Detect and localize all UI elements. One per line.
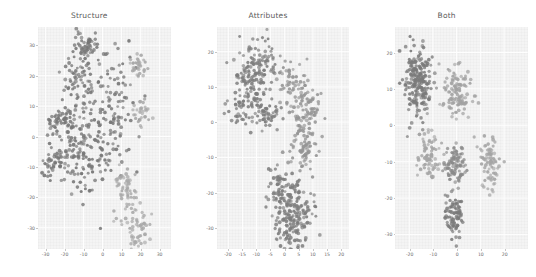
x-tick-label: 10 — [478, 252, 484, 257]
y-tick-mark — [215, 228, 217, 229]
y-tick-label: -20 — [201, 190, 214, 195]
y-tick-mark — [215, 52, 217, 53]
x-tick-label: -10 — [253, 252, 261, 257]
x-tick-label: -30 — [42, 252, 50, 257]
y-tick-label: 0 — [201, 120, 214, 125]
y-tick-label: 20 — [22, 73, 35, 78]
y-tick-label: 10 — [201, 84, 214, 89]
y-tick-mark — [36, 76, 38, 77]
x-tick-mark — [270, 249, 271, 251]
x-tick-mark — [433, 249, 434, 251]
y-tick-label: -10 — [201, 155, 214, 160]
x-tick-mark — [228, 249, 229, 251]
x-tick-label: -10 — [80, 252, 88, 257]
y-tick-mark — [394, 53, 396, 54]
x-tick-label: 0 — [101, 252, 104, 257]
x-tick-label: 30 — [157, 252, 163, 257]
x-tick-label: -15 — [238, 252, 246, 257]
x-tick-label: -20 — [224, 252, 232, 257]
x-tick-mark — [457, 249, 458, 251]
y-tick-mark — [394, 89, 396, 90]
y-tick-label: 10 — [22, 104, 35, 109]
plot-area — [217, 27, 350, 249]
y-tick-label: -10 — [379, 159, 392, 164]
y-tick-mark — [394, 198, 396, 199]
panel-title: Attributes — [179, 11, 358, 20]
y-tick-label: -30 — [201, 225, 214, 230]
x-tick-label: 15 — [324, 252, 330, 257]
x-tick-label: 10 — [310, 252, 316, 257]
x-tick-label: -20 — [406, 252, 414, 257]
y-tick-mark — [215, 157, 217, 158]
y-tick-label: 10 — [379, 86, 392, 91]
x-tick-label: -5 — [268, 252, 273, 257]
x-tick-mark — [46, 249, 47, 251]
y-tick-label: 30 — [22, 43, 35, 48]
x-tick-mark — [242, 249, 243, 251]
y-tick-label: 20 — [379, 50, 392, 55]
x-tick-mark — [160, 249, 161, 251]
x-tick-label: 5 — [297, 252, 300, 257]
plot-area — [395, 27, 528, 249]
y-tick-mark — [36, 137, 38, 138]
x-tick-mark — [410, 249, 411, 251]
y-tick-mark — [215, 193, 217, 194]
x-tick-mark — [313, 249, 314, 251]
y-tick-mark — [215, 87, 217, 88]
x-tick-label: 10 — [119, 252, 125, 257]
y-tick-mark — [36, 45, 38, 46]
x-tick-label: -20 — [61, 252, 69, 257]
x-tick-label: 20 — [138, 252, 144, 257]
x-tick-label: 0 — [456, 252, 459, 257]
scatter-points — [395, 27, 528, 249]
y-tick-mark — [394, 234, 396, 235]
y-tick-mark — [36, 106, 38, 107]
x-tick-mark — [141, 249, 142, 251]
scatter-points — [217, 27, 350, 249]
plot-area — [38, 27, 171, 249]
x-tick-mark — [122, 249, 123, 251]
x-tick-mark — [103, 249, 104, 251]
panel-structure: Structure -30-20-1001020303020100-10-20-… — [0, 0, 179, 277]
scatter-points — [38, 27, 171, 249]
tsne-figure: Structure -30-20-1001020303020100-10-20-… — [0, 0, 536, 277]
y-tick-mark — [394, 125, 396, 126]
x-tick-mark — [327, 249, 328, 251]
y-tick-label: 0 — [379, 123, 392, 128]
y-tick-label: -10 — [22, 164, 35, 169]
x-tick-mark — [505, 249, 506, 251]
y-tick-label: -20 — [22, 195, 35, 200]
x-tick-mark — [341, 249, 342, 251]
y-tick-label: 20 — [201, 49, 214, 54]
y-tick-label: -30 — [22, 225, 35, 230]
panel-title: Structure — [0, 11, 179, 20]
y-tick-label: -20 — [379, 196, 392, 201]
x-tick-mark — [481, 249, 482, 251]
y-tick-mark — [394, 162, 396, 163]
x-tick-mark — [65, 249, 66, 251]
panel-attributes: Attributes -20-15-10-50510152020100-10-2… — [179, 0, 358, 277]
y-tick-label: 0 — [22, 134, 35, 139]
y-tick-mark — [215, 122, 217, 123]
panel-both: Both -20-100102020100-10-20-30 — [357, 0, 536, 277]
x-tick-mark — [256, 249, 257, 251]
y-tick-mark — [36, 228, 38, 229]
y-tick-mark — [36, 167, 38, 168]
x-tick-label: 0 — [283, 252, 286, 257]
y-tick-mark — [36, 197, 38, 198]
x-tick-label: 20 — [502, 252, 508, 257]
x-tick-mark — [285, 249, 286, 251]
x-tick-label: 20 — [338, 252, 344, 257]
y-tick-label: -30 — [379, 232, 392, 237]
x-tick-mark — [84, 249, 85, 251]
x-tick-label: -10 — [430, 252, 438, 257]
x-tick-mark — [299, 249, 300, 251]
panel-title: Both — [357, 11, 536, 20]
